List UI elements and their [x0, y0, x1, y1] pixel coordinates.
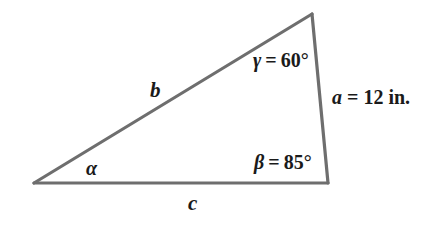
- side-b-label: b: [150, 80, 161, 101]
- diagram-canvas: b c α γ=60° β=85° a=12 in.: [0, 0, 442, 227]
- angle-beta-value: 85°: [284, 151, 312, 173]
- angle-gamma-value: 60°: [281, 49, 309, 71]
- side-c-label: c: [188, 193, 197, 214]
- side-a-symbol: a: [332, 86, 342, 108]
- side-a-equals: =: [347, 86, 358, 108]
- angle-beta-equals: =: [268, 151, 279, 173]
- angle-gamma-label: γ=60°: [253, 50, 309, 70]
- side-a-line: [312, 14, 328, 183]
- side-a-value: 12 in.: [363, 86, 410, 108]
- side-a-measurement-label: a=12 in.: [332, 87, 410, 107]
- triangle-figure: [0, 0, 442, 227]
- angle-beta-symbol: β: [254, 151, 264, 173]
- angle-gamma-equals: =: [265, 49, 276, 71]
- angle-gamma-symbol: γ: [253, 49, 261, 71]
- angle-beta-label: β=85°: [254, 152, 312, 172]
- angle-alpha-label: α: [86, 158, 97, 178]
